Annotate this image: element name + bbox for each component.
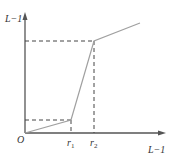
- y-axis: [23, 12, 28, 133]
- transform-curve: [25, 23, 140, 133]
- r1-label: r1: [67, 137, 75, 150]
- transform-diagram: L−1 O r1 r2 L−1: [0, 0, 174, 158]
- x-axis: [25, 131, 166, 136]
- x-axis-arrow-icon: [158, 131, 166, 136]
- origin-label: O: [17, 134, 24, 145]
- guide-lines: [25, 41, 94, 133]
- y-axis-label: L−1: [4, 13, 22, 24]
- r2-label: r2: [90, 137, 98, 150]
- x-axis-label: L−1: [147, 144, 165, 155]
- y-axis-arrow-icon: [23, 12, 28, 20]
